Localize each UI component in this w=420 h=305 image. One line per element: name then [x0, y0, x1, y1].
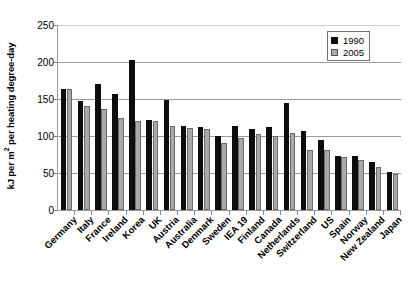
y-axis-title-superscript: 2	[3, 147, 10, 151]
bar-group	[387, 25, 399, 210]
black-square-swatch-icon	[331, 37, 338, 44]
bar-1990	[335, 156, 341, 210]
bar-2005	[256, 134, 262, 210]
bar-1990	[369, 162, 375, 210]
bar-1990	[164, 100, 170, 210]
bar-group	[284, 25, 296, 210]
bar-1990	[284, 103, 290, 210]
y-axis-tick-label: 50	[20, 168, 54, 179]
legend-label-1990: 1990	[343, 35, 364, 46]
bar-1990	[181, 126, 187, 210]
bar-group	[112, 25, 124, 210]
bar-1990	[352, 156, 358, 210]
y-axis-title-text-b: per heating degree-day	[4, 43, 15, 148]
bar-1990	[215, 136, 221, 210]
bar-2005	[84, 106, 90, 210]
gray-square-swatch-icon	[331, 49, 338, 56]
bar-group	[61, 25, 73, 210]
bar-2005	[393, 174, 399, 210]
bar-2005	[204, 129, 210, 210]
bar-2005	[153, 121, 159, 210]
bar-2005	[324, 150, 330, 210]
bar-2005	[67, 89, 73, 210]
bar-2005	[101, 109, 107, 210]
legend-item-1990: 1990	[331, 34, 364, 46]
bar-group	[215, 25, 227, 210]
bar-group	[164, 25, 176, 210]
bar-1990	[95, 84, 101, 210]
bar-1990	[266, 127, 272, 210]
bar-group	[249, 25, 261, 210]
bar-group	[198, 25, 210, 210]
bar-1990	[146, 120, 152, 210]
bar-1990	[129, 60, 135, 210]
x-axis-category-labels: GermanyItalyFranceIrelandKoreaUKAustriaA…	[0, 214, 420, 304]
bar-2005	[341, 157, 347, 210]
y-axis-tick-label: 250	[20, 20, 54, 31]
bar-group	[146, 25, 158, 210]
bar-2005	[118, 118, 124, 210]
y-axis-title-text-a: kJ per m	[4, 151, 15, 189]
chart-legend: 1990 2005	[327, 31, 370, 61]
y-axis-tick-label: 150	[20, 94, 54, 105]
bar-2005	[187, 128, 193, 210]
bar-group	[232, 25, 244, 210]
bar-group	[266, 25, 278, 210]
bar-2005	[290, 133, 296, 210]
bar-2005	[376, 167, 382, 210]
bar-2005	[221, 143, 227, 210]
bar-2005	[358, 160, 364, 210]
x-axis-label-germany: Germany	[41, 214, 78, 251]
bar-1990	[301, 131, 307, 210]
y-axis-tick-label: 200	[20, 57, 54, 68]
bar-2005	[238, 138, 244, 210]
bar-1990	[387, 172, 393, 210]
bar-group	[129, 25, 141, 210]
y-axis-tick-label: 100	[20, 131, 54, 142]
y-axis-title: kJ per m2 per heating degree-day	[0, 20, 18, 212]
bar-2005	[170, 126, 176, 210]
bar-group	[301, 25, 313, 210]
bar-1990	[318, 140, 324, 210]
bar-group	[78, 25, 90, 210]
bar-group	[369, 25, 381, 210]
bar-2005	[307, 150, 313, 210]
bar-2005	[273, 136, 279, 210]
bar-2005	[135, 121, 141, 210]
legend-label-2005: 2005	[343, 47, 364, 58]
bar-1990	[249, 129, 255, 210]
bar-1990	[232, 126, 238, 210]
bar-group	[181, 25, 193, 210]
bar-1990	[78, 101, 84, 210]
bar-1990	[112, 94, 118, 210]
bar-1990	[61, 89, 67, 210]
bar-group	[95, 25, 107, 210]
bar-1990	[198, 127, 204, 210]
bar-chart-figure: kJ per m2 per heating degree-day 0501001…	[0, 0, 420, 305]
legend-item-2005: 2005	[331, 46, 364, 58]
